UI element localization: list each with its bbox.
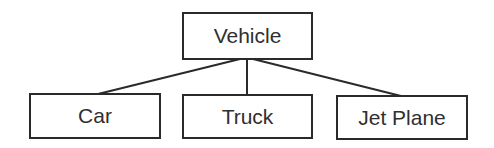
node-jet-plane: Jet Plane [336, 95, 468, 140]
node-label: Jet Plane [358, 106, 446, 130]
node-truck: Truck [182, 94, 313, 139]
node-label: Truck [222, 105, 274, 129]
node-car: Car [29, 93, 161, 139]
node-vehicle: Vehicle [182, 12, 313, 60]
node-label: Car [78, 104, 112, 128]
edge-vehicle-car [98, 59, 240, 94]
node-label: Vehicle [214, 24, 282, 48]
edge-vehicle-jet-plane [253, 59, 401, 96]
